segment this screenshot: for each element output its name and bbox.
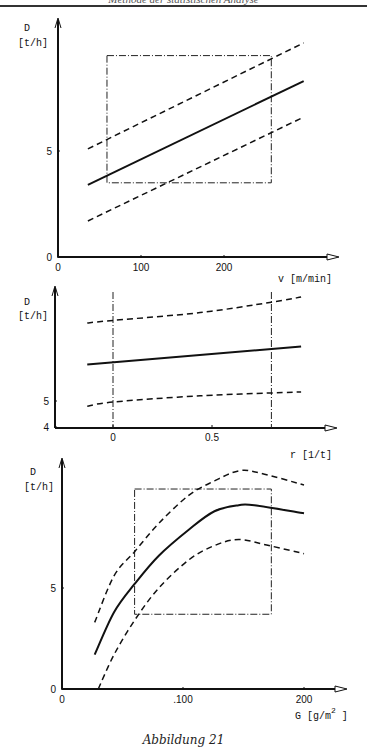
figure: D [t/h] 010020005 v [m/min] D [t/h] 00.5… <box>0 0 367 755</box>
x-axis-arrow-icon <box>335 686 347 692</box>
x-tick-label: 0 <box>59 694 65 705</box>
chart-2-r: D [t/h] 00.545 r [1/t] <box>18 286 337 461</box>
y-label-var: D <box>30 467 36 478</box>
y-tick-label: 0 <box>46 252 52 263</box>
ticks: 00.545 <box>43 396 219 443</box>
regression-line <box>95 504 304 654</box>
x-axis-label: v [m/min] <box>278 274 332 285</box>
y-tick-label: 5 <box>50 583 56 594</box>
y-label-unit: [t/h] <box>24 482 54 493</box>
y-tick-label: 0 <box>50 684 56 695</box>
x-tick-label: 200 <box>296 694 313 705</box>
chart-1-v: D [t/h] 010020005 v [m/min] <box>18 18 339 285</box>
ticks: 010020005 <box>46 146 232 273</box>
y-label-var: D <box>24 297 30 308</box>
confidence-bound-line <box>87 392 301 406</box>
x-tick-label: 0 <box>55 262 61 273</box>
regression-line <box>87 346 301 364</box>
figure-caption: Abbildung 21 <box>0 733 367 747</box>
x-tick-label: 100 <box>133 262 150 273</box>
y-tick-label: 5 <box>46 146 52 157</box>
x-tick-label: .100 <box>173 694 193 705</box>
confidence-bound-line <box>87 297 301 323</box>
confidence-bound-line <box>95 470 304 622</box>
y-label-unit: [t/h] <box>18 311 48 322</box>
x-tick-label: 0.5 <box>205 432 219 443</box>
x-tick-label: 0 <box>110 432 116 443</box>
y-label-unit: [t/h] <box>18 38 48 49</box>
x-axis-arrow-icon <box>325 425 337 431</box>
x-axis-label: r [1/t] <box>290 450 332 461</box>
series-group <box>87 292 301 428</box>
y-tick-label: 5 <box>43 396 49 407</box>
y-label-var: D <box>24 23 30 34</box>
chart-3-G: D [t/h] 0.10020005 G [g/m2 ] <box>24 458 348 722</box>
ticks: 0.10020005 <box>50 583 312 705</box>
series-group <box>88 43 304 221</box>
series-group <box>95 470 304 689</box>
x-tick-label: 200 <box>216 262 233 273</box>
x-axis-label: G [g/m2 ] <box>295 706 348 722</box>
y-tick-label: 4 <box>43 422 49 433</box>
x-axis-arrow-icon <box>327 254 339 260</box>
confidence-bound-line <box>98 540 304 689</box>
